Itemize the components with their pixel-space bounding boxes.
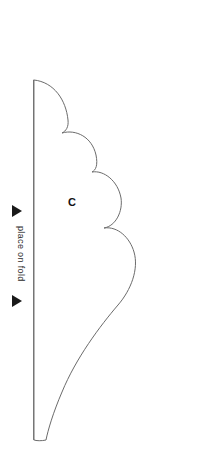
pattern-sheet: place on fold C (0, 0, 202, 472)
pattern-piece-outline (34, 80, 136, 441)
pattern-diagram: place on fold C (0, 0, 202, 472)
fold-arrow-top-icon (12, 205, 22, 217)
fold-arrow-bottom-icon (12, 295, 22, 307)
pattern-piece-letter: C (68, 196, 76, 208)
place-on-fold-label: place on fold (16, 226, 26, 282)
